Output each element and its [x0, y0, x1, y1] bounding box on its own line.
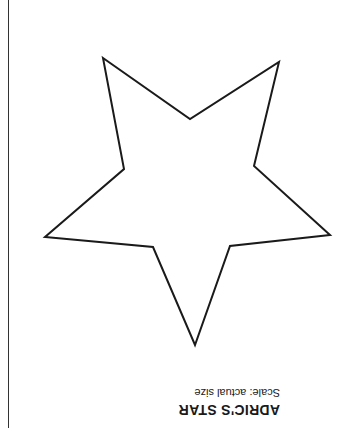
star-outline-icon	[0, 0, 358, 431]
scale-note: Scale: actual size	[180, 386, 280, 400]
document-page: ADRIC'S STAR Scale: actual size	[0, 0, 358, 431]
star-title: ADRIC'S STAR	[180, 402, 280, 418]
star-shape	[45, 58, 330, 345]
caption: ADRIC'S STAR Scale: actual size	[180, 372, 280, 418]
